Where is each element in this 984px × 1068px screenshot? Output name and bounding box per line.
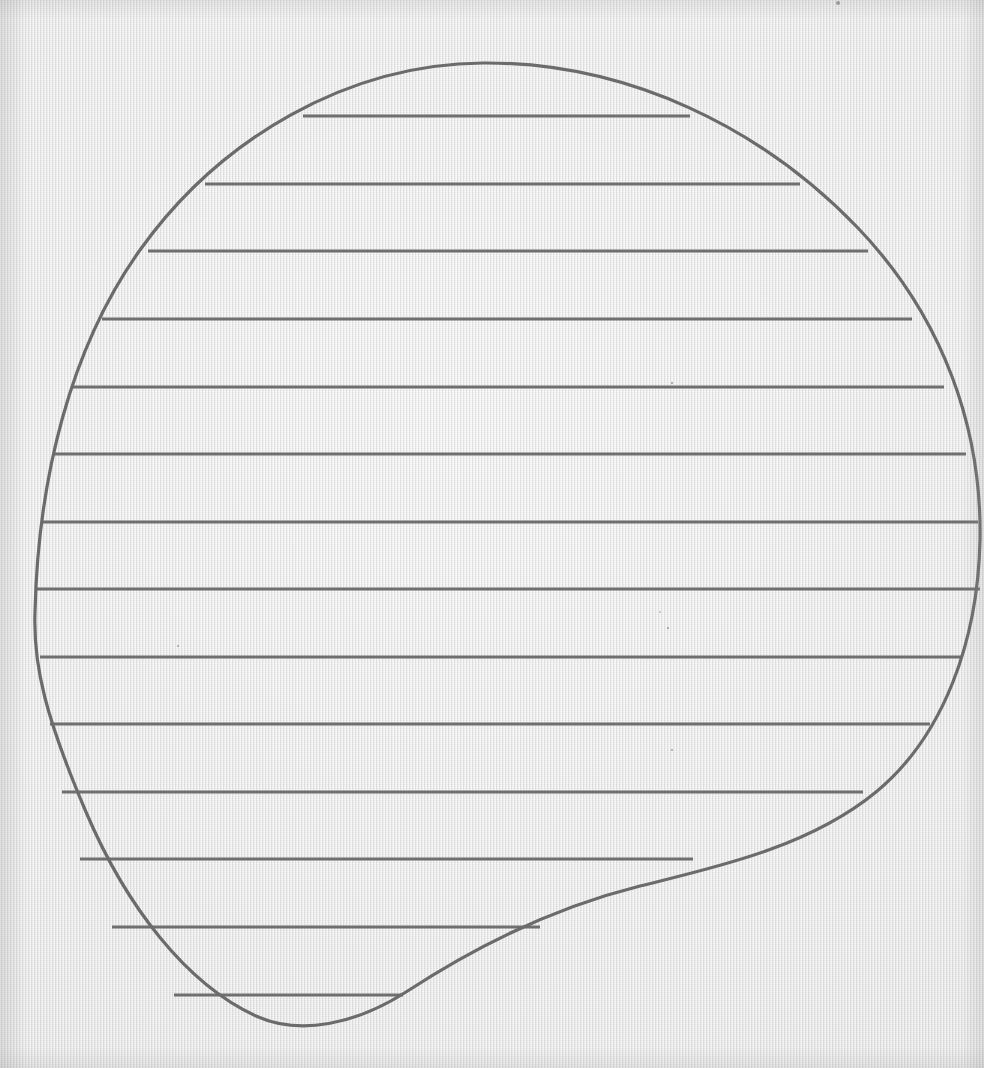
paper-speck bbox=[659, 611, 661, 613]
region-outline-curve bbox=[35, 63, 980, 1026]
paper-speck bbox=[671, 382, 673, 384]
paper-speck bbox=[667, 627, 669, 629]
paper-speck bbox=[671, 749, 673, 751]
horizontal-chords-group bbox=[36, 116, 980, 995]
paper-speck bbox=[177, 645, 179, 647]
paper-speck bbox=[836, 1, 840, 5]
figure-canvas bbox=[0, 0, 984, 1068]
paper-specks-group bbox=[177, 1, 840, 751]
geometry-figure bbox=[0, 0, 984, 1068]
